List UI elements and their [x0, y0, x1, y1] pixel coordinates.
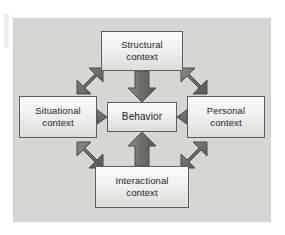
arrow-interactional-to-behavior	[128, 132, 156, 166]
node-situational-context: Situational context	[19, 96, 97, 138]
node-structural-context-line1: Structural	[121, 39, 163, 52]
page-edge-artifact	[3, 14, 9, 48]
node-interactional-context-line2: context	[126, 187, 157, 200]
diagram-panel: Structural context Situational context P…	[13, 18, 271, 222]
node-personal-context-line1: Personal	[207, 105, 245, 118]
figure-root: Structural context Situational context P…	[0, 0, 285, 235]
arrow-structural-to-behavior	[128, 71, 156, 102]
node-personal-context-line2: context	[210, 117, 241, 130]
node-situational-context-line1: Situational	[35, 105, 80, 118]
node-interactional-context: Interactional context	[95, 166, 189, 208]
node-personal-context: Personal context	[187, 96, 265, 138]
arrow-structural-personal	[181, 68, 207, 94]
node-situational-context-line2: context	[42, 117, 73, 130]
arrow-interactional-personal	[181, 142, 207, 168]
node-structural-context-line2: context	[126, 51, 157, 64]
node-behavior-label: Behavior	[122, 111, 162, 124]
arrow-situational-structural	[77, 68, 103, 94]
node-structural-context: Structural context	[101, 31, 183, 71]
node-interactional-context-line1: Interactional	[115, 175, 168, 188]
arrow-situational-interactional	[77, 142, 103, 168]
node-behavior: Behavior	[107, 102, 177, 132]
